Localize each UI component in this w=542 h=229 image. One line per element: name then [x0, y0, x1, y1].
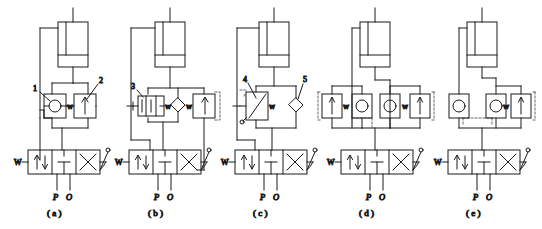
throttle-w-e: W	[503, 104, 509, 110]
port-o-label-d: O	[379, 192, 385, 202]
port-p-label-a: P	[52, 192, 58, 202]
port-o-label-e: O	[486, 192, 492, 202]
panel-caption-e: ( e )	[466, 208, 481, 218]
canvas-background	[0, 0, 542, 229]
hydraulic-circuit-diagram: W W	[0, 0, 542, 229]
port-p-label-d: P	[365, 192, 371, 202]
callout-3-label-b: 3	[131, 82, 135, 91]
dcv-left-label-d: W	[327, 158, 335, 167]
callout-4-label-c: 4	[243, 75, 247, 84]
throttle-left-w-d: W	[343, 104, 349, 110]
dcv-left-label-e: W	[434, 158, 442, 167]
dcv-left-label-a: W	[14, 158, 22, 167]
panel-caption-b: ( b )	[148, 208, 163, 218]
throttle-w-mark-c: W	[269, 104, 275, 110]
figure-sheet: W W	[0, 0, 542, 229]
callout-2-label-a: 2	[99, 76, 103, 85]
dcv-left-label-c: W	[221, 158, 229, 167]
port-o-label-a: O	[66, 192, 72, 202]
port-p-label-e: P	[472, 192, 478, 202]
relief-w-mark-b: W	[165, 104, 171, 110]
dcv-left-label-b: W	[115, 158, 123, 167]
port-p-label-c: P	[259, 192, 265, 202]
port-o-label-b: O	[167, 192, 173, 202]
panel-caption-c: ( c )	[253, 208, 268, 218]
port-o-label-c: O	[273, 192, 279, 202]
throttle-w-mark-b: W	[186, 104, 192, 110]
callout-5-label-c: 5	[303, 75, 307, 84]
panel-caption-d: ( d )	[359, 208, 374, 218]
port-p-label-b: P	[153, 192, 159, 202]
panel-caption-a: ( a )	[47, 208, 62, 218]
throttle-right-w-d: W	[402, 104, 408, 110]
throttle-w-mark-a: W	[67, 104, 73, 110]
callout-1-label-a: 1	[33, 84, 37, 93]
